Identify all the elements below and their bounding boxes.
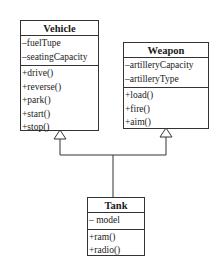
class-weapon: Weapon –artilleryCapacity –artilleryType…	[123, 42, 209, 129]
class-vehicle: Vehicle –fuelTupe –seatingCapacity +driv…	[20, 20, 99, 131]
class-name: Vehicle	[21, 21, 98, 36]
method: +aim()	[125, 116, 208, 130]
attribute: –fuelTupe	[22, 37, 98, 51]
attributes-section: –artilleryCapacity –artilleryType	[124, 58, 208, 88]
method: +load()	[125, 89, 208, 103]
methods-section: +drive() +reverse() +park() +start() +st…	[21, 66, 98, 136]
attribute: –seatingCapacity	[22, 51, 98, 65]
method: +start()	[22, 108, 98, 122]
methods-section: +ram() +radio()	[88, 230, 144, 259]
attribute: – model	[89, 214, 144, 228]
methods-section: +load() +fire() +aim()	[124, 88, 208, 131]
attributes-section: – model	[88, 213, 144, 230]
method: +fire()	[125, 103, 208, 117]
method: +ram()	[89, 231, 144, 245]
attribute: –artilleryType	[125, 73, 208, 87]
method: +park()	[22, 94, 98, 108]
method: +stop()	[22, 121, 98, 135]
attributes-section: –fuelTupe –seatingCapacity	[21, 36, 98, 66]
method: +reverse()	[22, 81, 98, 95]
method: +drive()	[22, 67, 98, 81]
class-tank: Tank – model +ram() +radio()	[87, 197, 145, 256]
class-name: Tank	[88, 198, 144, 213]
class-name: Weapon	[124, 43, 208, 58]
attribute: –artilleryCapacity	[125, 59, 208, 73]
method: +radio()	[89, 244, 144, 258]
